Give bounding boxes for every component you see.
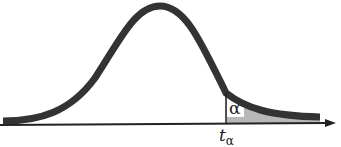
critical-value-label: tα bbox=[219, 125, 234, 147]
t-distribution-diagram: α tα bbox=[0, 0, 341, 147]
density-curve bbox=[3, 6, 320, 121]
x-axis-arrow-icon bbox=[325, 119, 336, 127]
tail-area-label: α bbox=[229, 98, 241, 118]
x-axis bbox=[0, 123, 328, 125]
critical-value-subscript: α bbox=[226, 134, 234, 147]
